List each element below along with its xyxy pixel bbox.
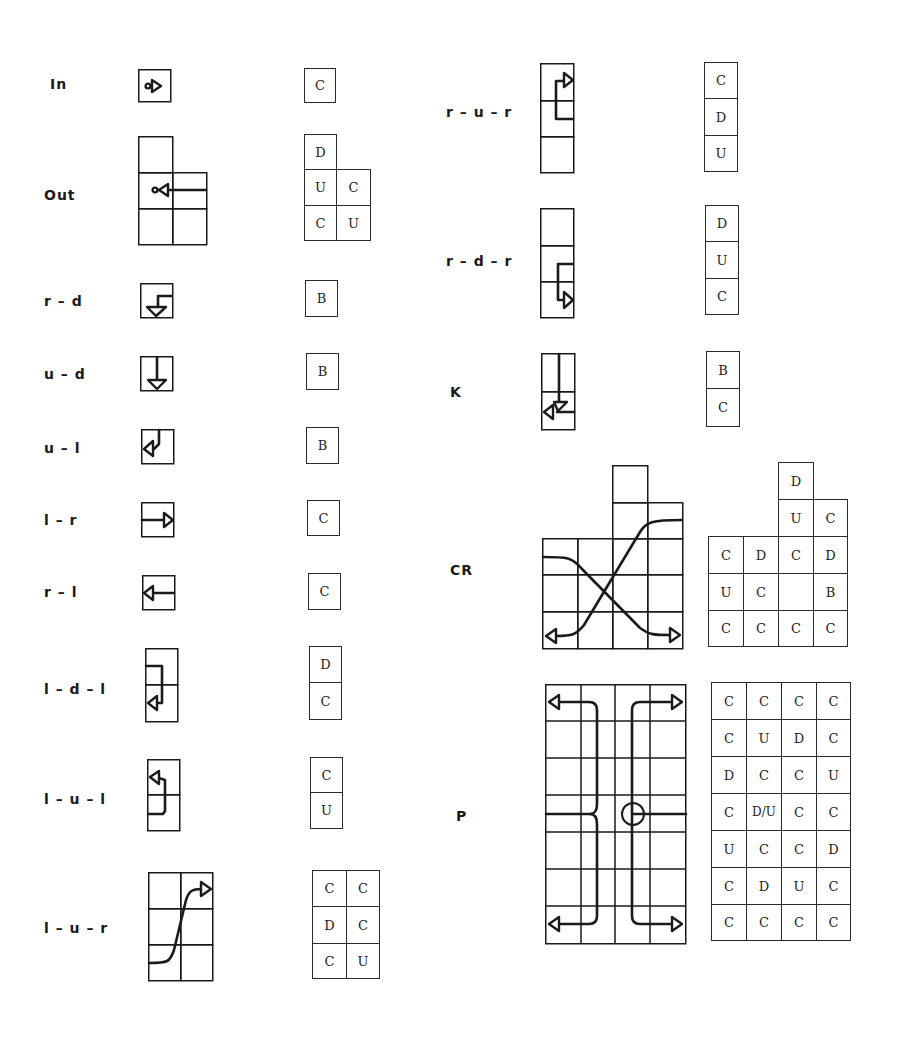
code-cell: D bbox=[704, 98, 738, 136]
diagram-cr bbox=[542, 465, 684, 650]
label-p: P bbox=[456, 808, 467, 824]
code-cell: D bbox=[813, 536, 848, 574]
diagram-l-d-l bbox=[145, 648, 179, 724]
code-cell: B bbox=[813, 573, 848, 611]
code-cell: C bbox=[778, 610, 814, 647]
code-cell: D bbox=[705, 205, 739, 242]
diagram-u-l bbox=[141, 429, 175, 465]
code-cell: D bbox=[309, 646, 342, 683]
code-cell bbox=[778, 573, 814, 611]
code-cell: C bbox=[304, 205, 337, 241]
code-cell: U bbox=[778, 499, 814, 537]
code-cell: C bbox=[307, 500, 340, 536]
label-r-l: r – l bbox=[44, 584, 77, 600]
label-l-r: l – r bbox=[44, 512, 77, 528]
diagram-r-d bbox=[140, 283, 174, 319]
code-cell: C bbox=[711, 867, 747, 905]
code-cell: C bbox=[781, 682, 817, 720]
diagram-r-d-r bbox=[540, 208, 576, 320]
label-l-u-l: l – u – l bbox=[44, 791, 106, 807]
code-cell: C bbox=[813, 610, 848, 647]
code-cell: C bbox=[746, 830, 782, 868]
diagram-k bbox=[541, 353, 577, 431]
code-cell: C bbox=[778, 536, 814, 574]
code-cell: C bbox=[816, 719, 851, 757]
code-cell: D bbox=[711, 756, 747, 794]
code-cell: C bbox=[312, 943, 347, 979]
code-cell: C bbox=[781, 830, 817, 868]
code-cell: C bbox=[711, 682, 747, 720]
code-cell: U bbox=[705, 241, 739, 279]
label-l-d-l: l – d – l bbox=[44, 681, 106, 697]
code-cell: C bbox=[816, 867, 851, 905]
code-cell: C bbox=[310, 757, 343, 793]
code-cell: C bbox=[746, 682, 782, 720]
label-u-d: u – d bbox=[44, 366, 86, 382]
code-cell: U bbox=[704, 135, 738, 172]
code-cell: C bbox=[781, 793, 817, 831]
diagram-out bbox=[138, 136, 208, 246]
diagram-r-l bbox=[142, 575, 176, 611]
code-cell: D bbox=[312, 906, 347, 944]
label-r-d-r: r – d – r bbox=[446, 253, 512, 269]
diagram-l-u-l bbox=[147, 759, 181, 833]
code-cell: C bbox=[704, 62, 738, 99]
code-cell: D bbox=[746, 867, 782, 905]
code-cell: U bbox=[711, 830, 747, 868]
label-l-u-r: l – u – r bbox=[44, 920, 108, 936]
diagram-l-u-r bbox=[148, 872, 218, 984]
code-cell: C bbox=[746, 904, 782, 941]
code-cell: U bbox=[346, 943, 380, 979]
code-cell: B bbox=[306, 353, 339, 390]
code-cell: C bbox=[746, 756, 782, 794]
label-out: Out bbox=[44, 187, 76, 203]
code-cell: B bbox=[305, 280, 338, 317]
code-cell: C bbox=[304, 68, 336, 103]
code-cell: C bbox=[816, 682, 851, 720]
code-cell: C bbox=[309, 682, 342, 720]
code-cell: C bbox=[706, 388, 740, 427]
code-cell: C bbox=[743, 573, 779, 611]
code-cell: B bbox=[306, 427, 339, 464]
code-cell: C bbox=[308, 573, 341, 610]
label-in: In bbox=[50, 76, 67, 92]
code-cell: C bbox=[816, 793, 851, 831]
code-cell: D bbox=[743, 536, 779, 574]
code-cell: C bbox=[705, 278, 739, 315]
code-cell: C bbox=[813, 499, 848, 537]
code-cell: U bbox=[816, 756, 851, 794]
code-cell: C bbox=[781, 756, 817, 794]
code-cell: U bbox=[746, 719, 782, 757]
label-r-d: r – d bbox=[44, 293, 83, 309]
code-cell: C bbox=[346, 906, 380, 944]
label-k: K bbox=[450, 384, 462, 400]
code-cell: D bbox=[778, 462, 814, 500]
label-u-l: u – l bbox=[44, 440, 81, 456]
diagram-p bbox=[545, 684, 687, 946]
diagram-u-d bbox=[140, 356, 174, 392]
code-cell: U bbox=[310, 792, 343, 829]
label-r-u-r: r – u – r bbox=[446, 104, 512, 120]
code-cell: C bbox=[816, 904, 851, 941]
code-cell: C bbox=[781, 904, 817, 941]
label-cr: CR bbox=[450, 562, 473, 578]
diagram-in bbox=[138, 69, 172, 103]
code-cell: B bbox=[706, 351, 740, 389]
code-cell: C bbox=[708, 536, 744, 574]
code-cell: D bbox=[304, 134, 337, 170]
code-cell-split: D/U bbox=[746, 793, 782, 831]
diagram-l-r bbox=[141, 502, 177, 538]
code-cell: C bbox=[312, 870, 347, 907]
code-cell: D bbox=[816, 830, 851, 868]
code-cell: C bbox=[743, 610, 779, 647]
code-cell: C bbox=[336, 169, 371, 206]
code-cell: U bbox=[781, 867, 817, 905]
code-cell: U bbox=[336, 205, 371, 241]
code-cell: C bbox=[711, 793, 747, 831]
code-cell: U bbox=[304, 169, 337, 206]
diagram-r-u-r bbox=[540, 63, 576, 175]
code-cell: C bbox=[711, 904, 747, 941]
code-cell: C bbox=[346, 870, 380, 907]
code-cell: D bbox=[781, 719, 817, 757]
code-cell: U bbox=[708, 573, 744, 611]
